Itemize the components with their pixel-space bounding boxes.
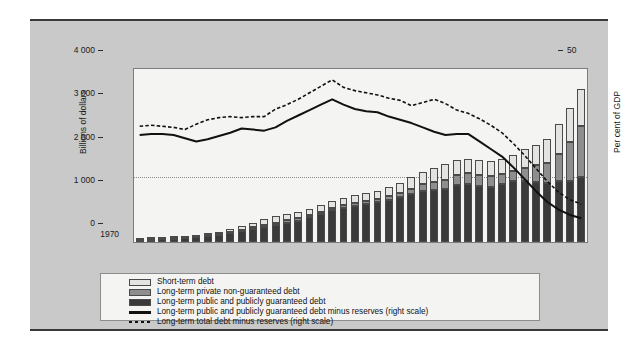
dark-gray-swatch	[129, 299, 151, 306]
left-axis-title: Billions of dollars	[78, 62, 88, 182]
legend-item: Long-term private non-guaranteed debt	[129, 288, 539, 297]
legend-item: Long-term total debt minus reserves (rig…	[129, 318, 539, 327]
legend-label: Long-term public and publicly guaranteed…	[157, 298, 325, 307]
right-tick-label: 50	[567, 45, 576, 55]
left-tick-label: 1 000	[49, 175, 95, 185]
dashed-trend-line	[140, 80, 582, 204]
right-axis-title: Per cent of GDP	[612, 62, 622, 182]
left-tick-label: 0	[49, 218, 95, 228]
left-tick-mark	[98, 137, 103, 138]
figure: Billions of dollars Per cent of GDP 4 00…	[0, 0, 636, 356]
chart-panel: Billions of dollars Per cent of GDP 4 00…	[30, 19, 608, 331]
left-tick-mark	[98, 180, 103, 181]
legend-item: Long-term public and publicly guaranteed…	[129, 298, 539, 307]
left-tick-label: 3 000	[49, 88, 95, 98]
dashed-line-swatch	[129, 318, 151, 325]
legend-item: Short-term debt	[129, 278, 539, 287]
light-gray-swatch	[129, 279, 151, 286]
solid-trend-line	[140, 99, 582, 218]
plot-inner	[134, 69, 587, 242]
left-tick-mark	[98, 223, 103, 224]
left-tick-label: 4 000	[49, 45, 95, 55]
left-tick-label: 2 000	[49, 132, 95, 142]
solid-line-swatch	[129, 308, 151, 315]
left-tick-mark	[98, 50, 103, 51]
medium-gray-swatch	[129, 289, 151, 296]
legend: Short-term debtLong-term private non-gua…	[100, 273, 540, 321]
right-tick-mark	[558, 50, 563, 51]
line-overlay	[134, 69, 587, 242]
legend-label: Short-term debt	[157, 278, 214, 287]
legend-label: Long-term public and publicly guaranteed…	[157, 308, 428, 317]
legend-label: Long-term private non-guaranteed debt	[157, 288, 299, 297]
left-tick-mark	[98, 93, 103, 94]
legend-item: Long-term public and publicly guaranteed…	[129, 308, 539, 317]
legend-label: Long-term total debt minus reserves (rig…	[157, 318, 333, 327]
plot-area	[133, 68, 588, 243]
